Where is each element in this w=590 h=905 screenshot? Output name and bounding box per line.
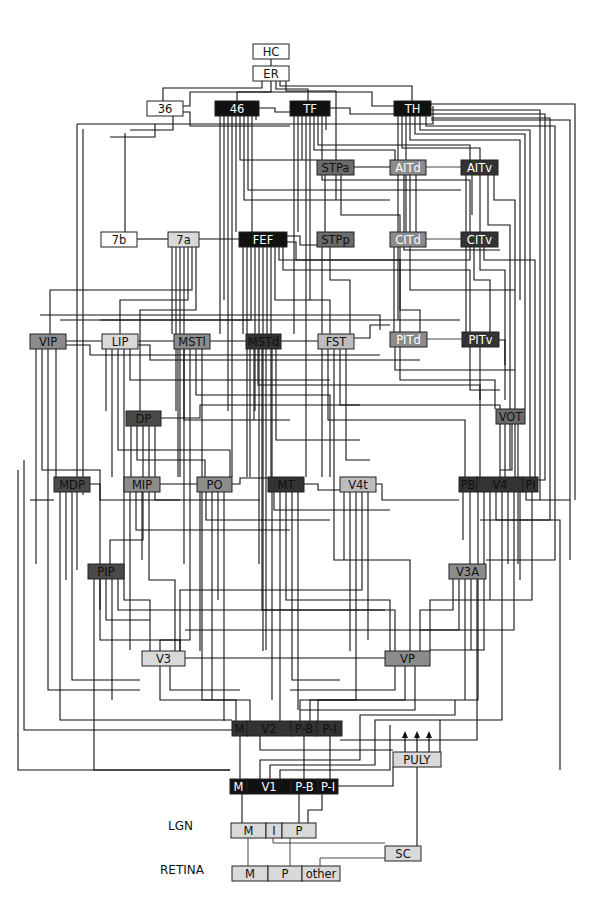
retina-label: RETINA bbox=[160, 863, 205, 877]
area-label: CITv bbox=[467, 233, 492, 247]
area-node-7b: 7b bbox=[101, 232, 137, 247]
area-label: PI bbox=[525, 478, 535, 492]
area-node-v1m: M bbox=[230, 779, 247, 794]
area-label: LIP bbox=[112, 335, 129, 349]
area-label: VOT bbox=[499, 410, 524, 424]
area-label: P bbox=[296, 824, 303, 838]
area-label: ER bbox=[263, 67, 278, 81]
area-node-mip: MIP bbox=[124, 477, 160, 492]
area-label: TH bbox=[404, 102, 421, 116]
area-label: DP bbox=[136, 412, 152, 426]
area-label: PIP bbox=[97, 565, 114, 579]
area-label: MDP bbox=[59, 478, 85, 492]
area-label: PB bbox=[461, 478, 476, 492]
area-label: HC bbox=[263, 45, 280, 59]
area-nodes: HCER3646TFTHSTPaAITdAITv7b7aFEFSTPpCITdC… bbox=[30, 44, 538, 881]
area-node-mdp: MDP bbox=[54, 477, 90, 492]
area-node-aitv: AITv bbox=[461, 160, 498, 175]
area-node-lgnm: M bbox=[231, 823, 266, 838]
area-node-vp: VP bbox=[385, 651, 430, 666]
arrowhead-icon bbox=[402, 731, 408, 738]
area-node-retm: M bbox=[232, 866, 268, 881]
area-node-vot: VOT bbox=[496, 409, 525, 424]
arrowhead-icon bbox=[426, 731, 432, 738]
area-node-pb: PB bbox=[459, 477, 477, 492]
area-node-v3a: V3A bbox=[449, 564, 486, 579]
area-label: CITd bbox=[395, 233, 421, 247]
area-label: P-B bbox=[295, 722, 313, 736]
area-label: V1 bbox=[261, 780, 276, 794]
area-node-v1: V1 bbox=[247, 779, 291, 794]
area-node-mstd: MSTd bbox=[246, 334, 281, 349]
area-label: P-I bbox=[321, 780, 335, 794]
area-node-stpp: STPp bbox=[317, 232, 354, 247]
area-node-sc: SC bbox=[385, 846, 421, 861]
area-label: M bbox=[234, 780, 244, 794]
area-label: STPa bbox=[322, 161, 350, 175]
area-label: TF bbox=[302, 102, 317, 116]
area-label: 36 bbox=[158, 102, 173, 116]
area-label: PITd bbox=[396, 333, 421, 347]
area-label: STPp bbox=[321, 233, 350, 247]
area-node-v1pi: P-I bbox=[318, 779, 338, 794]
area-label: V4t bbox=[348, 478, 368, 492]
area-label: 7b bbox=[112, 233, 127, 247]
area-node-lgnp: P bbox=[282, 823, 316, 838]
area-node-retother: other bbox=[302, 866, 340, 881]
area-node-v4: V4 bbox=[477, 477, 523, 492]
area-node-pitd: PITd bbox=[390, 332, 427, 347]
area-label: P bbox=[282, 867, 289, 881]
area-node-th: TH bbox=[394, 101, 431, 116]
area-node-v1pb: P-B bbox=[291, 779, 318, 794]
area-node-fef: FEF bbox=[239, 232, 287, 247]
area-node-v2: V2 bbox=[247, 721, 291, 736]
visual-hierarchy-diagram: HCER3646TFTHSTPaAITdAITv7b7aFEFSTPpCITdC… bbox=[0, 0, 590, 905]
area-node-retp: P bbox=[268, 866, 302, 881]
area-node-pi: PI bbox=[523, 477, 538, 492]
area-node-fst: FST bbox=[318, 334, 354, 349]
area-label: MSTl bbox=[178, 335, 205, 349]
area-label: MIP bbox=[132, 478, 152, 492]
area-label: V3 bbox=[156, 652, 171, 666]
area-node-v2pb: P-B bbox=[291, 721, 317, 736]
area-label: I bbox=[272, 824, 275, 838]
area-label: SC bbox=[395, 847, 410, 861]
area-node-pitv: PITv bbox=[462, 332, 499, 347]
area-node-pip: PIP bbox=[88, 564, 124, 579]
area-label: PULY bbox=[403, 753, 431, 767]
area-node-er: ER bbox=[253, 66, 289, 81]
area-label: FST bbox=[326, 335, 348, 349]
area-node-stpa: STPa bbox=[317, 160, 354, 175]
area-label: 7a bbox=[176, 233, 190, 247]
area-node-lgni: I bbox=[266, 823, 282, 838]
area-node-46: 46 bbox=[215, 101, 259, 116]
area-label: V4 bbox=[492, 478, 507, 492]
lgn-label: LGN bbox=[168, 819, 193, 833]
arrowhead-icon bbox=[414, 731, 420, 738]
area-node-mstl: MSTl bbox=[174, 334, 210, 349]
area-label: AITd bbox=[395, 161, 421, 175]
side-labels: LGNRETINA bbox=[160, 819, 205, 877]
area-node-puly: PULY bbox=[393, 752, 441, 767]
area-label: V2 bbox=[261, 722, 276, 736]
area-label: FEF bbox=[253, 233, 274, 247]
area-node-v4t: V4t bbox=[340, 477, 376, 492]
area-label: VIP bbox=[39, 335, 57, 349]
area-node-hc: HC bbox=[253, 44, 289, 59]
area-node-36: 36 bbox=[147, 101, 183, 116]
area-label: AITv bbox=[467, 161, 492, 175]
area-label: M bbox=[235, 722, 245, 736]
area-node-lip: LIP bbox=[102, 334, 138, 349]
area-label: other bbox=[306, 867, 337, 881]
area-node-v2pi: P-I bbox=[317, 721, 342, 736]
area-label: V3A bbox=[456, 565, 479, 579]
area-label: VP bbox=[400, 652, 415, 666]
area-label: M bbox=[244, 824, 254, 838]
area-node-citd: CITd bbox=[390, 232, 426, 247]
puly-output-arrows bbox=[402, 731, 432, 752]
area-label: P-I bbox=[322, 722, 336, 736]
area-node-vip: VIP bbox=[30, 334, 66, 349]
area-label: MT bbox=[278, 478, 296, 492]
area-label: P-B bbox=[295, 780, 313, 794]
area-label: M bbox=[245, 867, 255, 881]
